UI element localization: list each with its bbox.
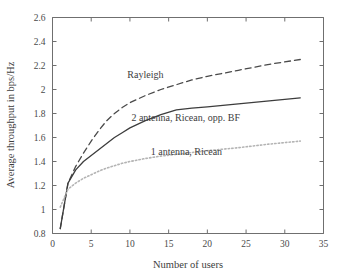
y-tick-label: 2.4	[34, 37, 46, 47]
x-tick-label: 0	[50, 239, 55, 249]
y-tick-label: 1.6	[34, 133, 46, 143]
y-tick-label: 2.2	[34, 61, 46, 71]
series-annotation-label: 2 antenna, Ricean, opp. BF	[131, 112, 240, 123]
series-annotations-group: Rayleigh2 antenna, Ricean, opp. BF1 ante…	[127, 69, 240, 157]
x-tick-label: 5	[89, 239, 94, 249]
y-tick-label: 1	[41, 205, 46, 215]
x-tick-label: 30	[280, 239, 290, 249]
series-group	[60, 60, 300, 229]
line-chart: 051015202530350.811.21.41.61.822.22.42.6…	[0, 0, 345, 279]
x-tick-label: 15	[164, 239, 174, 249]
y-tick-label: 1.4	[34, 157, 46, 167]
series-annotation-label: Rayleigh	[127, 69, 163, 80]
x-tick-label: 25	[241, 239, 251, 249]
axis-frame-left-bottom	[53, 18, 324, 234]
x-axis-title: Number of users	[153, 259, 223, 270]
series-annotation-label: 1 antenna, Ricean	[151, 146, 222, 157]
axis-ticks-group: 051015202530350.811.21.41.61.822.22.42.6	[34, 13, 329, 249]
y-tick-label: 1.2	[34, 181, 46, 191]
y-tick-label: 2	[41, 85, 46, 95]
x-tick-label: 20	[203, 239, 213, 249]
y-tick-label: 0.8	[34, 229, 46, 239]
chart-figure: 051015202530350.811.21.41.61.822.22.42.6…	[0, 0, 345, 279]
y-tick-label: 2.6	[34, 13, 46, 23]
axis-frame-top-right	[53, 18, 324, 234]
x-tick-label: 35	[319, 239, 329, 249]
y-tick-label: 1.8	[34, 109, 46, 119]
y-axis-title: Average throughput in bps/Hz	[5, 61, 16, 188]
x-tick-label: 10	[125, 239, 135, 249]
